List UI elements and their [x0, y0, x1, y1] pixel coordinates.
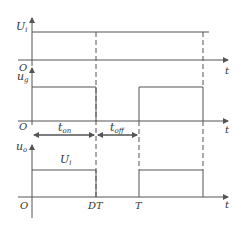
t-axis-label-2: t [225, 124, 230, 135]
uo-axis-label: uo [16, 140, 27, 154]
t-axis-label-1: t [225, 65, 230, 76]
ton-label: ton [58, 121, 72, 135]
uo-pulse-1 [32, 170, 96, 197]
timing-diagram: Ui O t ug O t ton toff uo Ui O DT T t [0, 0, 241, 229]
t-axis-label-3: t [225, 199, 230, 210]
uo-pulse-2 [139, 170, 203, 197]
origin-label-3: O [20, 200, 28, 211]
t-tick-label: T [135, 200, 143, 211]
ug-axis-label: ug [17, 70, 29, 84]
ug-pulse-2 [139, 87, 203, 121]
dt-tick-label: DT [87, 200, 104, 211]
origin-label-2: O [19, 121, 27, 132]
ug-pulse-1 [32, 87, 96, 121]
ui-level-label: Ui [60, 153, 72, 167]
ui-axis-label: Ui [16, 20, 28, 34]
toff-label: toff [110, 121, 125, 135]
